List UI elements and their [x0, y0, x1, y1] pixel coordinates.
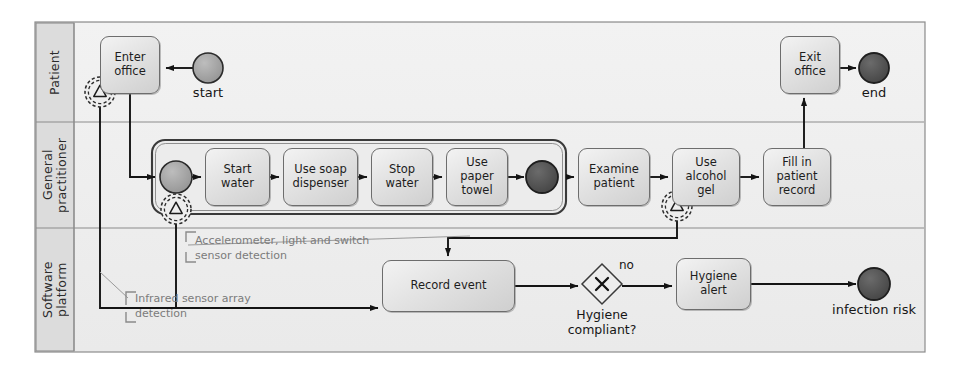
task-record-event[interactable]: Record event [382, 260, 515, 312]
task-exit-office[interactable]: Exit office [780, 36, 840, 94]
task-use-paper-towel[interactable]: Use paper towel [446, 148, 508, 206]
infection-risk-event-label: infection risk [829, 303, 919, 318]
lane-label-patient: Patient [36, 23, 74, 122]
task-use-soap-dispenser[interactable]: Use soap dispenser [283, 148, 358, 206]
hygiene-compliant-gateway-label: Hygiene compliant? [547, 307, 657, 337]
bpmn-diagram-canvas: Patient General practitioner Software pl… [0, 0, 955, 376]
task-fill-in-patient-record[interactable]: Fill in patient record [763, 148, 831, 206]
task-hygiene-alert[interactable]: Hygiene alert [676, 258, 751, 310]
flow-label-no: no [619, 258, 634, 272]
subprocess-start-event-circle [160, 161, 192, 193]
task-use-alcohol-gel[interactable]: Use alcohol gel [672, 148, 740, 206]
task-enter-office[interactable]: Enter office [100, 36, 160, 94]
task-examine-patient[interactable]: Examine patient [578, 148, 650, 206]
infection-risk-event-circle [858, 268, 890, 300]
start-event-circle [193, 53, 223, 83]
lane-label-general-practitioner: General practitioner [36, 122, 74, 228]
start-event-label: start [178, 86, 238, 101]
task-start-water[interactable]: Start water [205, 148, 270, 206]
end-event-circle [859, 53, 889, 83]
task-stop-water[interactable]: Stop water [371, 148, 433, 206]
lane-label-software-platform: Software platform [36, 228, 74, 351]
subprocess-end-event-circle [526, 161, 558, 193]
annotation-accelerometer: Accelerometer, light and switch sensor d… [195, 234, 373, 264]
boundary-subprocess-icon [161, 194, 191, 224]
end-event-label: end [844, 86, 904, 101]
annotation-infrared: Infrared sensor array detection [135, 292, 255, 322]
